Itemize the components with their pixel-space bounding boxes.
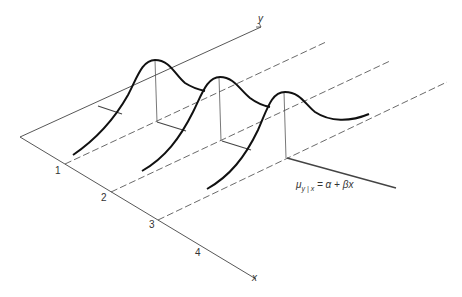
regression-diagram <box>0 0 462 297</box>
x-tick-label-1: 1 <box>55 166 61 176</box>
grid-line-3 <box>158 82 447 220</box>
equation-subscript: y | x <box>301 185 314 192</box>
y-axis <box>20 27 261 137</box>
mean-vertical-1 <box>155 60 157 122</box>
x-tick-label-2: 2 <box>101 193 107 203</box>
x-tick-label-4: 4 <box>195 248 201 258</box>
grid-line-1 <box>65 42 326 164</box>
x-tick-label-3: 3 <box>149 220 155 230</box>
mean-vertical-3 <box>284 92 286 158</box>
regression-equation: μy | x = α + βx <box>296 180 353 192</box>
mean-vertical-2 <box>219 77 221 141</box>
grid-line-2 <box>111 61 390 192</box>
y-axis-label: y <box>258 14 263 24</box>
x-axis <box>20 137 256 279</box>
mean-tick-2 <box>157 122 186 131</box>
mean-tick-3 <box>222 141 251 150</box>
x-axis-label: x <box>252 273 257 283</box>
normal-curve-2 <box>142 77 270 171</box>
equation-rhs: = α + βx <box>314 179 353 190</box>
